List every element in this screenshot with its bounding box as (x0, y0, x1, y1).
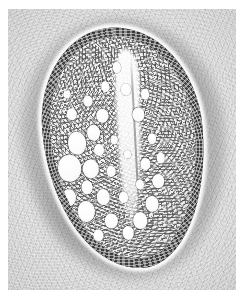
micrograph-image-field (8, 9, 236, 290)
bacterial-cell (34, 21, 214, 276)
cytoplasm (43, 30, 206, 266)
micrograph-page (0, 0, 245, 300)
